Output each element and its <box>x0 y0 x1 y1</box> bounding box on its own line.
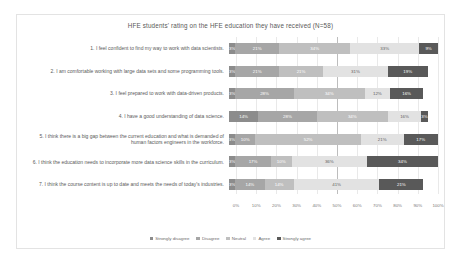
bar-segment: 17% <box>235 156 271 167</box>
bar-segment: 41% <box>294 179 380 190</box>
bar-row: 3. I feel prepared to work with data-dri… <box>24 82 438 105</box>
bar-segment: 34% <box>367 156 438 167</box>
stacked-bar: 14%28%34%16%3% <box>229 111 438 122</box>
bar-segment: 14% <box>265 179 294 190</box>
legend-label: Disagree <box>202 236 220 241</box>
bar-segment: 21% <box>235 43 279 54</box>
bar-segment: 14% <box>235 179 264 190</box>
bar-segment: 34% <box>294 88 365 99</box>
category-label: 1. I feel confident to find my way to wo… <box>24 45 229 52</box>
category-label: 5. I think there is a big gap between th… <box>24 133 229 146</box>
bar-segment: 52% <box>255 134 361 145</box>
plot-area: 1. I feel confident to find my way to wo… <box>24 37 438 214</box>
bar-row: 1. I feel confident to find my way to wo… <box>24 37 438 60</box>
bar-track: 14%28%34%16%3% <box>229 105 438 128</box>
bar-segment: 10% <box>271 156 292 167</box>
bar-segment: 10% <box>235 134 255 145</box>
bar-segment: 34% <box>317 111 388 122</box>
stacked-bar: 3%28%34%12%16% <box>229 88 438 99</box>
axis-tick-label: 100% <box>432 203 443 208</box>
bar-segment: 19% <box>388 66 428 77</box>
bar-segment: 12% <box>365 88 390 99</box>
axis-tick-label: 50% <box>333 203 342 208</box>
stacked-bar: 3%17%10%36%34% <box>229 156 438 167</box>
bar-segment: 21% <box>379 179 423 190</box>
bar-track: 3%21%34%33%9% <box>229 37 438 60</box>
chart-title: HFE students' rating on the HFE educatio… <box>17 22 444 29</box>
legend-item[interactable]: Agree <box>253 236 270 241</box>
category-label: 7. I think the course content is up to d… <box>24 181 229 188</box>
bar-segment: 16% <box>388 111 421 122</box>
bar-segment: 21% <box>235 66 279 77</box>
category-label: 3. I feel prepared to work with data-dri… <box>24 90 229 97</box>
legend-swatch-icon <box>196 237 199 240</box>
chart-legend: Strongly disagreeDisagreeNeutralAgreeStr… <box>17 236 444 241</box>
legend-item[interactable]: Neutral <box>226 236 246 241</box>
axis-tick-label: 60% <box>353 203 362 208</box>
bar-segment: 28% <box>258 111 317 122</box>
bar-segment: 21% <box>361 134 404 145</box>
x-axis: 0%10%20%30%40%50%60%70%80%90%100% <box>236 203 438 212</box>
bar-segment: 33% <box>350 43 419 54</box>
bar-segment: 36% <box>292 156 367 167</box>
legend-label: Agree <box>258 236 270 241</box>
bar-row: 6. I think the education needs to incorp… <box>24 151 438 174</box>
bar-segment: 9% <box>419 43 438 54</box>
bar-row: 7. I think the course content is up to d… <box>24 173 438 196</box>
bar-row: 5. I think there is a big gap between th… <box>24 128 438 151</box>
axis-tick-label: 30% <box>292 203 301 208</box>
bar-track: 3%10%52%21%17% <box>229 128 438 151</box>
bar-row: 2. I am comfortable working with large d… <box>24 60 438 83</box>
axis-tick-label: 10% <box>252 203 261 208</box>
legend-swatch-icon <box>253 237 256 240</box>
bar-segment: 3% <box>421 111 427 122</box>
stacked-bar: 3%10%52%21%17% <box>229 134 438 145</box>
category-label: 6. I think the education needs to incorp… <box>24 159 229 166</box>
bar-segment: 31% <box>323 66 388 77</box>
bar-track: 3%28%34%12%16% <box>229 82 438 105</box>
legend-swatch-icon <box>150 237 153 240</box>
legend-item[interactable]: Strongly disagree <box>150 236 190 241</box>
stacked-bar: 3%14%14%41%21% <box>229 179 438 190</box>
category-label: 2. I am comfortable working with large d… <box>24 68 229 75</box>
bar-segment: 34% <box>279 43 350 54</box>
bar-track: 3%17%10%36%34% <box>229 151 438 174</box>
chart-card: HFE students' rating on the HFE educatio… <box>16 14 445 249</box>
legend-label: Strongly agree <box>283 236 312 241</box>
bar-track: 3%21%21%31%19% <box>229 60 438 83</box>
legend-item[interactable]: Strongly agree <box>277 236 311 241</box>
axis-tick-label: 80% <box>393 203 402 208</box>
bar-segment: 28% <box>235 88 294 99</box>
legend-swatch-icon <box>226 237 229 240</box>
stacked-bar: 3%21%34%33%9% <box>229 43 438 54</box>
stacked-bar: 3%21%21%31%19% <box>229 66 438 77</box>
legend-item[interactable]: Disagree <box>196 236 219 241</box>
axis-tick-label: 70% <box>373 203 382 208</box>
bar-track: 3%14%14%41%21% <box>229 173 438 196</box>
bar-rows: 1. I feel confident to find my way to wo… <box>24 37 438 196</box>
bar-segment: 14% <box>229 111 258 122</box>
gridline <box>438 37 439 194</box>
bar-row: 4. I have a good understanding of data s… <box>24 105 438 128</box>
axis-tick-label: 0% <box>233 203 239 208</box>
legend-label: Strongly disagree <box>155 236 189 241</box>
category-label: 4. I have a good understanding of data s… <box>24 113 229 120</box>
axis-tick-label: 20% <box>272 203 281 208</box>
axis-tick-label: 40% <box>312 203 321 208</box>
bar-segment: 16% <box>390 88 423 99</box>
legend-swatch-icon <box>277 237 280 240</box>
legend-label: Neutral <box>232 236 246 241</box>
bar-segment: 21% <box>279 66 323 77</box>
bar-segment: 17% <box>404 134 438 145</box>
axis-tick-label: 90% <box>413 203 422 208</box>
